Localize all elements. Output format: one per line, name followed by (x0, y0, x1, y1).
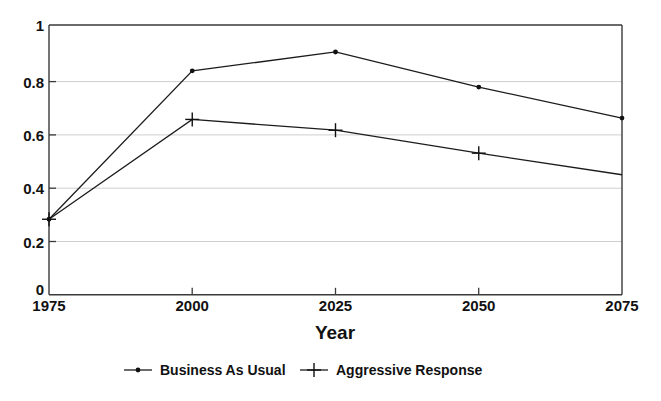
x-tick-label-2050: 2050 (462, 297, 495, 314)
legend-label-business-as-usual: Business As Usual (160, 362, 286, 378)
chart-canvas: 1 0.8 0.6 0.4 0.2 0 1975 2000 2025 2050 … (0, 0, 661, 401)
series-aggressive-response (42, 112, 622, 226)
x-axis-title: Year (315, 322, 356, 343)
y-tick-label-0.6: 0.6 (23, 127, 44, 144)
x-tick-label-2025: 2025 (319, 297, 352, 314)
y-tick-label-0: 0 (36, 281, 44, 298)
data-point-marker (472, 146, 486, 160)
data-point-marker (190, 68, 195, 73)
data-point-marker (333, 50, 338, 55)
chart-legend: Business As Usual Aggressive Response (124, 362, 482, 378)
data-point-marker (620, 116, 625, 121)
x-axis-labels: 1975 2000 2025 2050 2075 (32, 297, 638, 314)
y-tick-label-0.8: 0.8 (23, 74, 44, 91)
x-axis-ticks (192, 288, 479, 295)
legend-label-aggressive-response: Aggressive Response (336, 362, 482, 378)
x-tick-label-2075: 2075 (605, 297, 638, 314)
data-point-marker (476, 85, 481, 90)
y-tick-label-0.4: 0.4 (23, 180, 45, 197)
dot-marker-icon (136, 368, 141, 373)
y-tick-label-0.2: 0.2 (23, 234, 44, 251)
line-chart: 1 0.8 0.6 0.4 0.2 0 1975 2000 2025 2050 … (0, 0, 661, 401)
legend-item-business-as-usual: Business As Usual (124, 362, 286, 378)
plus-marker-icon (307, 363, 321, 377)
x-tick-label-1975: 1975 (32, 297, 65, 314)
y-tick-label-1: 1 (36, 17, 44, 34)
legend-item-aggressive-response: Aggressive Response (300, 362, 482, 378)
data-point-marker (185, 112, 199, 126)
y-axis-labels: 1 0.8 0.6 0.4 0.2 0 (23, 17, 45, 298)
x-tick-label-2000: 2000 (176, 297, 209, 314)
